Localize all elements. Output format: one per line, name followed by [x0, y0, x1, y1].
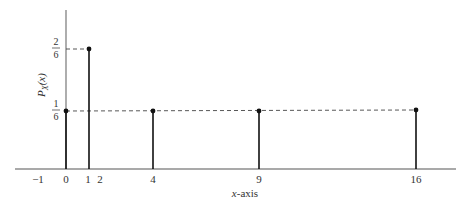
x-tick-label: 16: [411, 173, 423, 185]
x-tick-label: 2: [97, 173, 103, 185]
svg-text:1: 1: [54, 98, 59, 109]
stem-x9: [257, 109, 262, 169]
stem-x1: [87, 47, 92, 169]
y-axis-label: PX(x): [35, 73, 50, 98]
x-axis-label: x-axis: [231, 187, 258, 199]
x-tick-label: −1: [32, 173, 44, 185]
ref-line-1-6: [66, 110, 416, 111]
svg-text:6: 6: [54, 49, 59, 60]
stem-plot: −1 0 1 2 4 9 16 x-axis 2 6 1 6 PX(x): [0, 0, 470, 207]
y-tick-2-6: 2 6: [52, 36, 60, 60]
svg-text:6: 6: [54, 111, 59, 122]
y-tick-1-6: 1 6: [52, 98, 60, 122]
stem-x4: [151, 109, 156, 169]
x-tick-label: 1: [85, 173, 91, 185]
svg-text:2: 2: [54, 36, 59, 47]
x-tick-label: 0: [63, 173, 69, 185]
stem-x16: [414, 108, 419, 169]
x-tick-label: 4: [150, 173, 156, 185]
x-tick-label: 9: [256, 173, 262, 185]
stem-x0: [64, 109, 69, 169]
